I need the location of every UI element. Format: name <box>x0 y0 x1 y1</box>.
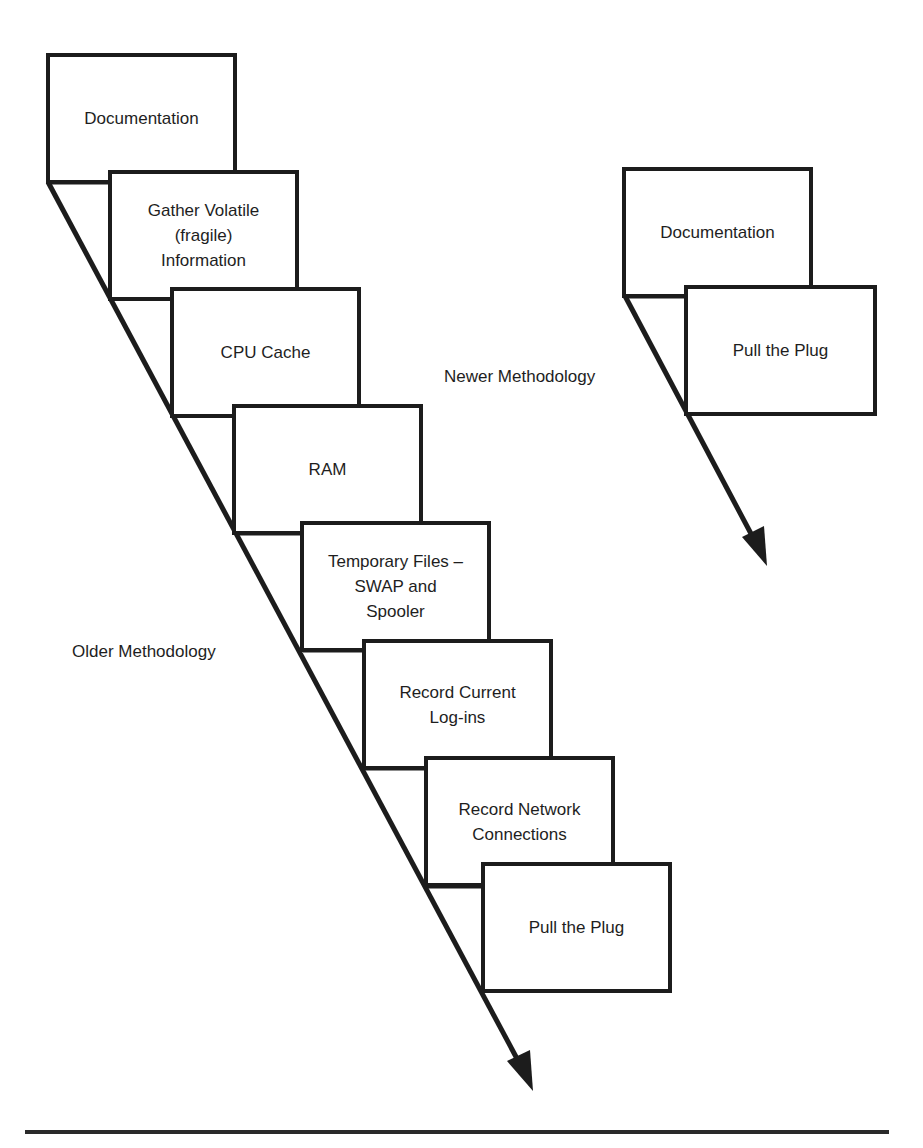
newer-step-pull-plug: Pull the Plug <box>684 285 877 416</box>
step-label: Gather Volatile (fragile) Information <box>148 198 260 273</box>
older-step-temporary-files: Temporary Files – SWAP and Spooler <box>300 521 491 652</box>
figure-divider-rule <box>25 1130 889 1134</box>
older-step-ram: RAM <box>232 404 423 535</box>
step-label: Temporary Files – SWAP and Spooler <box>328 549 463 624</box>
step-label: Record Network Connections <box>459 797 581 847</box>
older-step-cpu-cache: CPU Cache <box>170 287 361 418</box>
step-label: CPU Cache <box>221 340 311 365</box>
newer-step-documentation: Documentation <box>622 167 813 298</box>
step-label: RAM <box>309 457 347 482</box>
step-label: Documentation <box>84 106 198 131</box>
step-label: Documentation <box>660 220 774 245</box>
step-label: Pull the Plug <box>529 915 624 940</box>
older-step-documentation: Documentation <box>46 53 237 184</box>
older-step-pull-plug: Pull the Plug <box>481 862 672 993</box>
older-step-record-logins: Record Current Log-ins <box>362 639 553 770</box>
step-label: Record Current Log-ins <box>399 680 515 730</box>
step-label: Pull the Plug <box>733 338 828 363</box>
newer-arrowhead-icon <box>742 526 767 566</box>
older-arrowhead-icon <box>507 1050 533 1091</box>
newer-methodology-label: Newer Methodology <box>444 367 595 387</box>
older-methodology-label: Older Methodology <box>72 642 216 662</box>
older-step-gather-volatile: Gather Volatile (fragile) Information <box>108 170 299 301</box>
forensic-methodology-diagram: Documentation Gather Volatile (fragile) … <box>0 0 923 1148</box>
